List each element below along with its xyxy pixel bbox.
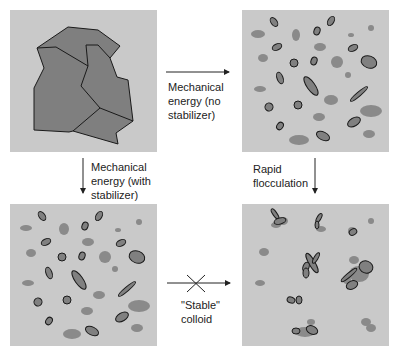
label-mechanical-with-stabilizer: Mechanical energy (with stabilizer) [91, 160, 151, 202]
label-stable-colloid: "Stable" colloid [181, 298, 220, 326]
panel-dispersed-stabilized [10, 204, 157, 346]
label-mechanical-no-stabilizer: Mechanical energy (no stabilizer) [168, 80, 224, 122]
panel-flocculated [242, 204, 389, 346]
panel-dispersed-unstable [242, 10, 389, 152]
label-rapid-flocculation: Rapid flocculation [253, 162, 308, 190]
panel-solid [10, 10, 157, 152]
